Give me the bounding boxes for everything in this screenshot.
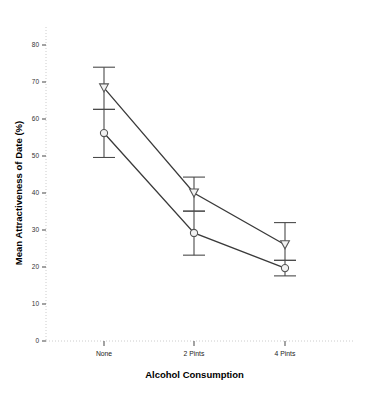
x-axis-tick-label-4-pints: 4 Pints bbox=[275, 350, 296, 357]
chart-container: 01020304050607080None2 Pints4 PintsAlcoh… bbox=[0, 0, 367, 400]
y-axis-tick-label: 80 bbox=[32, 41, 40, 48]
data-point-circle bbox=[190, 229, 197, 236]
data-point-circle bbox=[100, 129, 107, 136]
x-axis-title: Alcohol Consumption bbox=[145, 369, 244, 380]
y-axis-tick-label: 20 bbox=[32, 263, 40, 270]
y-axis-tick-label: 30 bbox=[32, 226, 40, 233]
y-axis-tick-label: 0 bbox=[35, 337, 39, 344]
y-axis-tick-label: 60 bbox=[32, 115, 40, 122]
data-point-triangle bbox=[281, 241, 290, 249]
y-axis-tick-label: 10 bbox=[32, 300, 40, 307]
x-axis-tick-label-2-pints: 2 Pints bbox=[184, 350, 205, 357]
line-chart-plot: 01020304050607080None2 Pints4 PintsAlcoh… bbox=[0, 0, 367, 400]
data-point-triangle bbox=[190, 189, 199, 197]
data-point-circle bbox=[281, 265, 288, 272]
y-axis-title: Mean Attractiveness of Date (%) bbox=[13, 121, 24, 265]
y-axis-tick-label: 50 bbox=[32, 152, 40, 159]
y-axis-tick-label: 40 bbox=[32, 189, 40, 196]
x-axis-tick-label-none: None bbox=[96, 350, 112, 357]
y-axis-tick-label: 70 bbox=[32, 78, 40, 85]
